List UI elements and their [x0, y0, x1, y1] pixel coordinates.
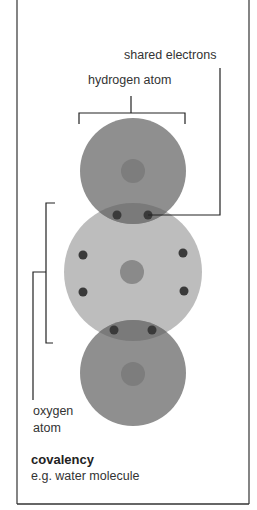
hydrogen-atom-label: hydrogen atom [88, 73, 171, 88]
oxygen-bracket [33, 203, 55, 400]
oxygen-nucleus [120, 260, 144, 284]
shared-electrons-label: shared electrons [124, 48, 216, 63]
oxygen-atom-label-line1: oxygen [33, 404, 73, 419]
caption-title: covalency [31, 452, 94, 467]
caption-subtitle: e.g. water molecule [31, 469, 139, 483]
hydrogen-nucleus-bottom [121, 362, 145, 386]
hydrogen-nucleus-top [121, 159, 145, 183]
oxygen-atom-label-line2: atom [33, 421, 61, 436]
